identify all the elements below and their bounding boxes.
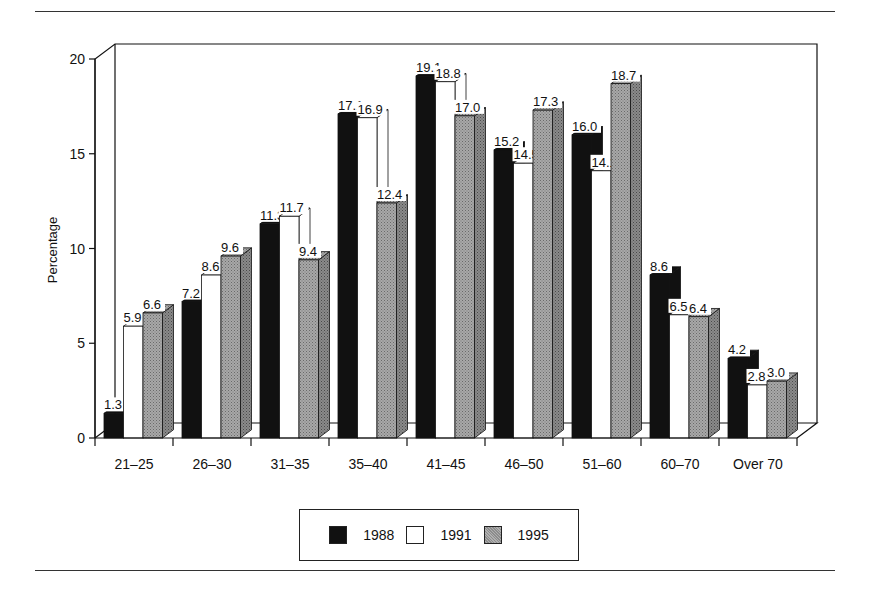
value-label: 17.3 [533, 94, 558, 109]
bar-1995-21–25: 6.6 [142, 297, 174, 438]
x-tick-label: 26–30 [193, 456, 232, 472]
value-label: 3.0 [767, 365, 785, 380]
value-label: 16.9 [358, 102, 383, 117]
legend-label: 1988 [363, 527, 394, 543]
value-label: 9.4 [299, 244, 317, 259]
legend-swatch-icon [329, 526, 347, 544]
bar-1995-60–70: 6.4 [688, 301, 720, 438]
bar-1995-31–35: 9.4 [298, 244, 330, 438]
value-label: 6.4 [689, 301, 707, 316]
value-label: 17.0 [455, 100, 480, 115]
x-tick-label: 46–50 [505, 456, 544, 472]
value-label: 16.0 [572, 119, 597, 134]
value-label: 5.9 [124, 310, 142, 325]
value-label: 11.7 [280, 200, 304, 215]
y-tick-label: 5 [77, 335, 85, 351]
legend-label: 1995 [518, 527, 549, 543]
x-tick-label: 35–40 [349, 456, 388, 472]
legend-item-1988: 1988 [329, 526, 394, 544]
x-tick-label: 60–70 [661, 456, 700, 472]
bar-1995-35–40: 12.4 [376, 187, 408, 438]
bar-1995-41–45: 17.0 [454, 100, 486, 438]
bars: 1.35.96.67.28.69.611.311.79.417.116.912.… [103, 60, 798, 438]
y-tick-label: 15 [69, 146, 85, 162]
value-label: 4.2 [728, 342, 746, 357]
x-tick-label: Over 70 [733, 456, 783, 472]
value-label: 6.5 [670, 299, 688, 314]
bar-1995-Over 70: 3.0 [766, 365, 798, 438]
y-tick-label: 10 [69, 241, 85, 257]
legend-swatch-icon [406, 526, 424, 544]
bar-1995-46–50: 17.3 [532, 94, 564, 438]
value-label: 8.6 [650, 259, 668, 274]
value-label: 18.7 [611, 68, 636, 83]
legend-item-1995: 1995 [484, 526, 549, 544]
value-label: 2.8 [748, 369, 766, 384]
value-label: 12.4 [377, 187, 402, 202]
bar-1995-26–30: 9.6 [220, 240, 252, 438]
bar-1995-51–60: 18.7 [610, 68, 642, 438]
value-label: 9.6 [221, 240, 239, 255]
legend-item-1991: 1991 [406, 526, 471, 544]
legend-label: 1991 [440, 527, 471, 543]
y-axis-label: Percentage [45, 217, 60, 284]
x-tick-label: 51–60 [583, 456, 622, 472]
legend: 198819911995 [299, 509, 579, 561]
x-tick-label: 31–35 [271, 456, 310, 472]
y-tick-label: 20 [69, 51, 85, 67]
y-tick-label: 0 [77, 430, 85, 446]
legend-swatch-icon [484, 526, 502, 544]
x-tick-label: 21–25 [115, 456, 154, 472]
value-label: 6.6 [143, 297, 161, 312]
value-label: 8.6 [202, 259, 220, 274]
value-label: 18.8 [436, 66, 461, 81]
value-label: 1.3 [104, 397, 122, 412]
x-tick-label: 41–45 [427, 456, 466, 472]
value-label: 7.2 [182, 286, 200, 301]
